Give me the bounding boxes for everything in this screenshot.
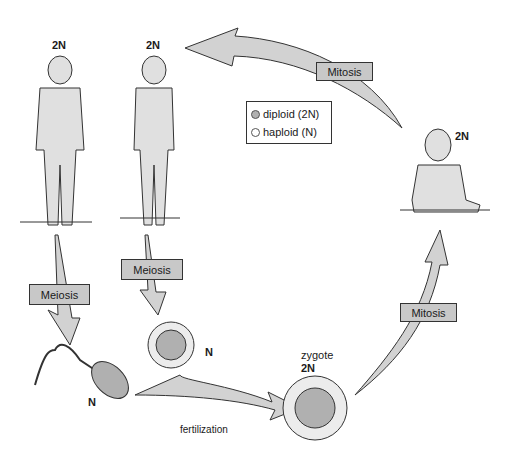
woman-ploidy-label: 2N <box>146 40 160 51</box>
egg-ploidy-label: N <box>205 347 213 358</box>
baby-figure <box>400 129 490 212</box>
legend-label: haploid (N) <box>263 126 317 138</box>
zygote-label: zygote <box>301 350 333 361</box>
fertilization-label: fertilization <box>180 424 228 435</box>
egg-cell <box>148 322 194 368</box>
diploid-swatch-icon <box>251 110 260 119</box>
sperm-cell <box>35 345 135 406</box>
arrow-fertilization <box>135 375 300 420</box>
meiosis-female-label: Meiosis <box>121 259 183 280</box>
meiosis-male-label: Meiosis <box>29 284 90 305</box>
mitosis-top-label: Mitosis <box>316 62 373 81</box>
woman-figure <box>120 56 180 225</box>
life-cycle-art <box>0 0 510 466</box>
sperm-ploidy-label: N <box>88 397 96 408</box>
zygote-ploidy-label: 2N <box>301 363 315 374</box>
legend: diploid (2N) haploid (N) <box>246 101 332 144</box>
baby-ploidy-label: 2N <box>455 131 469 142</box>
legend-label: diploid (2N) <box>263 108 319 120</box>
mitosis-right-label: Mitosis <box>400 303 457 322</box>
man-ploidy-label: 2N <box>52 40 66 51</box>
zygote-cell <box>283 376 347 440</box>
legend-item-diploid: diploid (2N) <box>251 105 327 123</box>
haploid-swatch-icon <box>251 128 260 137</box>
man-figure <box>20 56 92 225</box>
legend-item-haploid: haploid (N) <box>251 123 327 141</box>
